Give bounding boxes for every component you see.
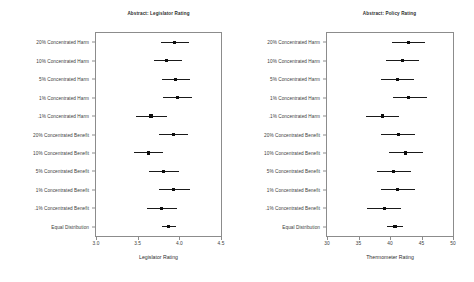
x-axis-tick-label: 4.5	[218, 241, 225, 246]
data-point	[165, 59, 168, 62]
y-axis-tick	[92, 226, 95, 227]
y-axis-tick-label: 20% Concentrated Benefit	[33, 132, 89, 137]
x-axis-tick	[359, 237, 360, 240]
y-axis-tick	[323, 226, 326, 227]
data-point	[173, 41, 176, 44]
x-axis-tick-label: 45	[419, 241, 424, 246]
y-axis-tick	[323, 134, 326, 135]
data-point	[401, 59, 404, 62]
data-point	[404, 151, 407, 154]
data-point	[407, 41, 410, 44]
y-axis-tick-label: 10% Concentrated Benefit	[264, 150, 320, 155]
data-point	[383, 207, 386, 210]
x-axis-tick-label: 35	[356, 241, 361, 246]
y-axis-tick-label: 10% Concentrated Harm	[267, 58, 320, 63]
x-axis-tick	[390, 237, 391, 240]
y-axis-tick	[323, 171, 326, 172]
data-point	[147, 151, 150, 154]
y-axis-tick-label: .1% Concentrated Benefit	[34, 206, 89, 211]
y-axis-tick	[323, 97, 326, 98]
panel-title: Abstract: Policy Rating	[326, 11, 453, 16]
x-axis-title: Thermometer Rating	[326, 254, 454, 260]
x-axis-title: Legislator Rating	[95, 254, 222, 260]
y-axis-tick	[92, 171, 95, 172]
data-point	[392, 170, 395, 173]
y-axis-tick-label: 5% Concentrated Benefit	[36, 169, 89, 174]
y-axis-tick-label: .1% Concentrated Harm	[38, 114, 89, 119]
plot-area-left	[96, 33, 221, 236]
y-axis-tick-label: Equal Distribution	[282, 224, 320, 229]
data-point	[174, 78, 177, 81]
data-point	[172, 188, 175, 191]
y-axis-tick	[323, 79, 326, 80]
data-point	[172, 133, 175, 136]
y-axis-tick	[92, 134, 95, 135]
panel-title: Abstract: Legislator Rating	[95, 11, 222, 16]
y-axis-tick-label: 5% Concentrated Harm	[270, 77, 320, 82]
y-axis-tick-label: 1% Concentrated Benefit	[267, 187, 320, 192]
y-axis-tick	[323, 208, 326, 209]
y-axis-tick-label: .1% Concentrated Benefit	[265, 206, 320, 211]
panel-policy-rating: Abstract: Policy Rating 20% Concentrated…	[237, 0, 474, 282]
figure-forest-plots: Abstract: Legislator Rating 20% Concentr…	[0, 0, 474, 282]
y-axis-tick-label: 5% Concentrated Benefit	[267, 169, 320, 174]
y-axis-tick-label: 10% Concentrated Benefit	[33, 150, 89, 155]
x-axis-tick	[138, 237, 139, 240]
x-axis-tick	[327, 237, 328, 240]
data-point	[396, 188, 399, 191]
data-point	[393, 225, 396, 228]
y-axis-tick	[92, 208, 95, 209]
y-axis-tick	[92, 79, 95, 80]
y-axis-tick	[323, 152, 326, 153]
y-axis-tick-label: 20% Concentrated Harm	[36, 40, 89, 45]
y-axis-tick	[323, 189, 326, 190]
plot-frame-left	[95, 32, 222, 237]
y-axis-tick	[323, 60, 326, 61]
data-point	[160, 207, 163, 210]
y-axis-tick	[323, 42, 326, 43]
x-axis-tick	[179, 237, 180, 240]
y-axis-tick-label: 5% Concentrated Harm	[39, 77, 89, 82]
x-axis-tick	[221, 237, 222, 240]
x-axis-tick	[96, 237, 97, 240]
y-axis-tick-label: 20% Concentrated Harm	[267, 40, 320, 45]
data-point	[407, 96, 410, 99]
y-axis-tick	[323, 116, 326, 117]
x-axis-tick	[453, 237, 454, 240]
y-axis-tick	[92, 42, 95, 43]
data-point	[162, 170, 165, 173]
y-axis-tick-label: 10% Concentrated Harm	[36, 58, 89, 63]
x-axis-tick	[422, 237, 423, 240]
x-axis-tick-label: 40	[387, 241, 392, 246]
x-axis-tick-label: 50	[450, 241, 455, 246]
y-axis-tick-label: 1% Concentrated Harm	[270, 95, 320, 100]
y-axis-tick	[92, 152, 95, 153]
x-axis-tick-label: 3.5	[134, 241, 141, 246]
x-axis-tick-label: 30	[324, 241, 329, 246]
y-axis-tick	[92, 97, 95, 98]
data-point	[397, 133, 400, 136]
data-point	[167, 225, 170, 228]
data-point	[176, 96, 179, 99]
y-axis-tick	[92, 116, 95, 117]
panel-legislator-rating: Abstract: Legislator Rating 20% Concentr…	[0, 0, 237, 282]
data-point	[381, 114, 384, 117]
y-axis-tick-label: Equal Distribution	[51, 224, 89, 229]
y-axis-tick-label: 20% Concentrated Benefit	[264, 132, 320, 137]
y-axis-tick-label: .1% Concentrated Harm	[269, 114, 320, 119]
y-axis-tick	[92, 60, 95, 61]
x-axis-tick-label: 3.0	[93, 241, 100, 246]
x-axis-tick-label: 4.0	[176, 241, 183, 246]
y-axis-labels-right: 20% Concentrated Harm10% Concentrated Ha…	[237, 32, 326, 237]
data-point	[149, 114, 152, 117]
y-axis-tick	[92, 189, 95, 190]
data-point	[396, 78, 399, 81]
plot-area-right	[327, 33, 453, 236]
y-axis-labels-left: 20% Concentrated Harm10% Concentrated Ha…	[0, 32, 95, 237]
y-axis-tick-label: 1% Concentrated Harm	[39, 95, 89, 100]
plot-frame-right	[326, 32, 454, 237]
y-axis-tick-label: 1% Concentrated Benefit	[36, 187, 89, 192]
